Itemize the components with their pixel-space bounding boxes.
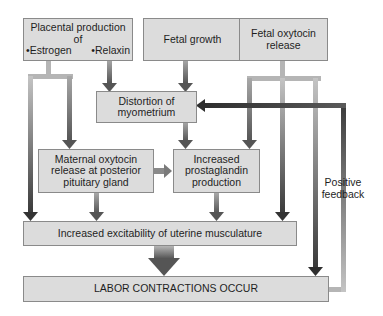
arrow-prostaglandin-to-excitability <box>209 193 224 221</box>
node-increased-excitability: Increased excitability of uterine muscul… <box>23 221 297 246</box>
arrow-excitability-to-labor <box>148 245 180 276</box>
feedback-line2: feedback <box>318 189 368 201</box>
node-increased-prostaglandin: Increased prostaglandin production <box>173 149 260 193</box>
labor-text: LABOR CONTRACTIONS OCCUR <box>94 283 258 295</box>
node-maternal-oxytocin-release: Maternal oxytocin release at posterior p… <box>38 149 154 193</box>
fetal-oxytocin-line2: release <box>266 40 300 52</box>
node-distortion-myometrium: Distortion of myometrium <box>96 91 197 123</box>
line-placental-branch <box>28 74 73 79</box>
placental-line2: of <box>74 34 83 46</box>
arrow-distortion-to-prostaglandin <box>178 122 193 149</box>
node-fetal-growth: Fetal growth <box>143 18 242 61</box>
arrow-placental-to-distortion <box>102 60 117 92</box>
positive-feedback-label: Positive feedback <box>318 177 368 200</box>
arrow-fetal-oxytocin-to-prostaglandin <box>242 78 257 149</box>
arrow-maternal-to-prostaglandin <box>153 164 172 178</box>
distortion-line2: myometrium <box>118 107 176 119</box>
excitability-text: Increased excitability of uterine muscul… <box>58 228 262 240</box>
arrow-fetal-oxytocin-to-excitability <box>275 78 290 221</box>
arrow-fetalgrowth-to-distortion <box>178 60 193 92</box>
node-placental-production: Placental production of •Estrogen •Relax… <box>23 18 133 61</box>
bullet-estrogen: •Estrogen <box>26 45 72 57</box>
arrow-placental-to-maternal-oxytocin <box>62 76 77 149</box>
arrow-placental-to-excitability <box>23 76 38 221</box>
node-fetal-oxytocin-release: Fetal oxytocin release <box>239 18 328 61</box>
node-labor-contractions: LABOR CONTRACTIONS OCCUR <box>23 276 329 302</box>
fetal-oxytocin-line1: Fetal oxytocin <box>251 28 316 40</box>
maternal-line3: pituitary gland <box>63 177 128 189</box>
prostaglandin-line3: production <box>192 177 241 189</box>
arrow-maternal-to-excitability <box>89 193 104 221</box>
bullet-relaxin: •Relaxin <box>91 45 130 57</box>
fetal-growth-text: Fetal growth <box>164 34 222 46</box>
feedback-line1: Positive <box>318 177 368 189</box>
